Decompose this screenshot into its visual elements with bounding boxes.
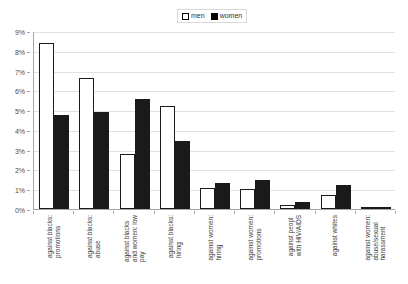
bar-group xyxy=(361,32,391,209)
x-axis-label-text: against blacks:hiring xyxy=(166,215,181,258)
x-axis-label-text: against peoplwith HIV/AIDS xyxy=(287,215,302,256)
y-tick-label: 9% xyxy=(15,29,25,36)
bar-group xyxy=(321,32,351,209)
x-tick-mark xyxy=(355,211,356,214)
plot-area xyxy=(33,32,395,210)
x-axis-label-text: against women:abuse/sexualharassment xyxy=(364,215,387,261)
y-tick-label: 4% xyxy=(15,127,25,134)
bar-group xyxy=(39,32,69,209)
bar-group xyxy=(79,32,109,209)
y-tick-label: 1% xyxy=(15,187,25,194)
bar-women xyxy=(135,99,150,209)
bars-layer xyxy=(34,32,395,209)
x-tick-mark xyxy=(315,211,316,214)
bar-group xyxy=(200,32,230,209)
x-tick-mark xyxy=(33,211,34,214)
bar-men xyxy=(160,106,175,209)
x-tick-mark xyxy=(395,211,396,214)
x-axis-label-text: against whites xyxy=(331,215,339,256)
x-axis-label-text: against women:hiring xyxy=(206,215,221,261)
x-axis-label-line: promotions xyxy=(254,215,262,261)
y-tick-label: 0% xyxy=(15,207,25,214)
x-axis-label-line: promotions xyxy=(53,215,61,258)
x-axis-label: against women:hiring xyxy=(194,215,234,284)
y-tick-mark xyxy=(27,151,30,152)
bar-men xyxy=(39,43,54,209)
y-tick-mark xyxy=(27,190,30,191)
bar-women xyxy=(175,141,190,209)
bar-group xyxy=(120,32,150,209)
y-tick-mark xyxy=(27,210,30,211)
x-tick-mark xyxy=(113,211,114,214)
x-axis-label-line: with HIV/AIDS xyxy=(294,215,302,256)
x-tick-mark xyxy=(234,211,235,214)
bar-group xyxy=(160,32,190,209)
x-axis-label-line: hiring xyxy=(214,215,222,261)
x-axis-label-line: against women: xyxy=(247,215,255,261)
legend-label-women: women xyxy=(220,12,243,20)
x-axis-label: against women:promotions xyxy=(234,215,274,284)
x-axis-label-line: abuse/sexual xyxy=(371,215,379,261)
bar-men xyxy=(280,205,295,209)
x-tick-mark xyxy=(194,211,195,214)
y-tick-label: 3% xyxy=(15,147,25,154)
bar-men xyxy=(321,195,336,209)
x-axis-label-line: against women: xyxy=(206,215,214,261)
x-axis: against blacks:promotionsagainst blacks:… xyxy=(33,211,395,284)
bar-men xyxy=(200,188,215,209)
y-tick-label: 2% xyxy=(15,167,25,174)
y-tick-mark xyxy=(27,131,30,132)
bar-women xyxy=(215,183,230,209)
bar-women xyxy=(94,112,109,209)
y-tick-mark xyxy=(27,52,30,53)
legend-swatch-men-icon xyxy=(182,13,189,20)
x-axis-label-line: against blacks xyxy=(122,215,130,262)
y-tick-mark xyxy=(27,91,30,92)
x-axis-label-line: against whites xyxy=(331,215,339,256)
x-tick-mark xyxy=(274,211,275,214)
x-axis-label-line: against blacks: xyxy=(86,215,94,258)
x-axis-label-line: against blacks: xyxy=(46,215,54,258)
bar-women xyxy=(255,180,270,209)
x-axis-label-line: harassment xyxy=(379,215,387,261)
x-axis-label: against women:abuse/sexualharassment xyxy=(355,215,395,284)
x-axis-label-line: abuse xyxy=(93,215,101,258)
x-axis-label-line: pay xyxy=(137,215,145,262)
legend-label-men: men xyxy=(191,12,205,20)
x-axis-label-text: against blacks:abuse xyxy=(86,215,101,258)
bar-chart: men women 0%1%2%3%4%5%6%7%8%9% against b… xyxy=(0,0,408,284)
x-axis-label-text: against blacks:promotions xyxy=(46,215,61,258)
y-tick-label: 5% xyxy=(15,108,25,115)
x-axis-label: against blacks:promotions xyxy=(33,215,73,284)
bar-men xyxy=(79,78,94,209)
x-axis-label-text: against blacksand women: lowpay xyxy=(122,215,145,262)
bar-women xyxy=(376,207,391,209)
x-axis-label: against blacks:hiring xyxy=(154,215,194,284)
bar-women xyxy=(54,115,69,209)
bar-group xyxy=(280,32,310,209)
x-axis-label-text: against women:promotions xyxy=(247,215,262,261)
y-axis: 0%1%2%3%4%5%6%7%8%9% xyxy=(0,32,30,210)
legend-entry-women: women xyxy=(211,12,243,20)
bar-men xyxy=(361,207,376,209)
x-axis-label: against whites xyxy=(315,215,355,284)
legend-entry-men: men xyxy=(182,12,205,20)
x-axis-label-line: and women: low xyxy=(130,215,138,262)
x-tick-mark xyxy=(154,211,155,214)
legend-swatch-women-icon xyxy=(211,13,218,20)
x-axis-label-line: against peopl xyxy=(287,215,295,256)
x-axis-label-line: against blacks: xyxy=(166,215,174,258)
x-axis-label-line: against women: xyxy=(364,215,372,261)
y-tick-mark xyxy=(27,111,30,112)
y-tick-mark xyxy=(27,72,30,73)
y-tick-mark xyxy=(27,170,30,171)
x-axis-label: against blacks:abuse xyxy=(73,215,113,284)
x-axis-label: against blacksand women: lowpay xyxy=(113,215,153,284)
x-tick-mark xyxy=(73,211,74,214)
x-axis-label: against peoplwith HIV/AIDS xyxy=(274,215,314,284)
bar-women xyxy=(295,202,310,209)
bar-men xyxy=(120,154,135,209)
bar-men xyxy=(240,189,255,209)
y-tick-label: 8% xyxy=(15,48,25,55)
y-tick-label: 6% xyxy=(15,88,25,95)
